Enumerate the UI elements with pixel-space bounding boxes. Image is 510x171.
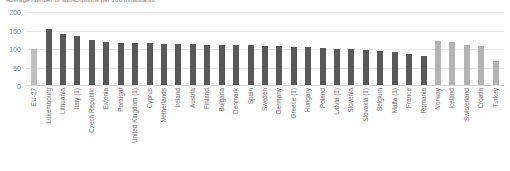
x-label-slot: Slovakia (1) <box>359 88 373 170</box>
bar-series <box>26 12 504 86</box>
bar[interactable] <box>320 48 326 86</box>
bar-slot <box>200 12 214 86</box>
x-label-slot: Switzerland <box>460 88 474 170</box>
x-label-slot: Estonia <box>99 88 113 170</box>
bar[interactable] <box>89 40 95 86</box>
x-tick-label: EU-27 <box>31 88 37 106</box>
bar[interactable] <box>348 49 354 86</box>
bar[interactable] <box>291 47 297 86</box>
bar[interactable] <box>392 52 398 86</box>
y-tick-label: 50 <box>13 64 21 71</box>
x-label-slot: Sweden <box>258 88 272 170</box>
bar-slot <box>489 12 503 86</box>
bar-slot <box>388 12 402 86</box>
bar[interactable] <box>31 49 37 86</box>
bar-slot <box>41 12 55 86</box>
y-tick-label: 0 <box>17 83 21 90</box>
x-tick-label: Lithuania <box>60 88 66 114</box>
bar[interactable] <box>478 46 484 86</box>
x-label-slot: Portugal <box>114 88 128 170</box>
bar-slot <box>171 12 185 86</box>
bar-slot <box>474 12 488 86</box>
bar[interactable] <box>248 45 254 86</box>
x-tick-label: Hungary <box>305 88 311 112</box>
bar[interactable] <box>262 46 268 86</box>
bar-slot <box>287 12 301 86</box>
bar-slot <box>142 12 156 86</box>
x-label-slot: Greece (1) <box>287 88 301 170</box>
bar[interactable] <box>161 44 167 86</box>
x-axis-baseline <box>26 85 504 86</box>
x-tick-label: Denmark <box>233 88 239 114</box>
x-label-slot: Finland <box>200 88 214 170</box>
x-label-slot: Slovenia <box>344 88 358 170</box>
y-tick-label: 100 <box>9 46 21 53</box>
x-label-slot: Hungary <box>301 88 315 170</box>
x-tick-label: Luxembourg <box>45 88 51 124</box>
bar[interactable] <box>334 49 340 86</box>
x-label-slot: Latvia (1) <box>330 88 344 170</box>
x-tick-label: France <box>406 88 412 108</box>
x-label-slot: Iceland <box>445 88 459 170</box>
bar-slot <box>402 12 416 86</box>
x-tick-label: Poland <box>319 88 325 108</box>
bar[interactable] <box>60 34 66 86</box>
bar-slot <box>99 12 113 86</box>
chart-title: Average number of subscriptions per 100 … <box>6 0 155 3</box>
bar[interactable] <box>276 46 282 86</box>
x-label-slot: Denmark <box>229 88 243 170</box>
bar[interactable] <box>305 47 311 86</box>
x-tick-label: Belgium <box>377 88 383 111</box>
bar[interactable] <box>190 44 196 86</box>
x-label-slot: Austria <box>186 88 200 170</box>
bar[interactable] <box>103 42 109 86</box>
x-tick-label: Turkey <box>493 88 499 107</box>
x-tick-label: Bulgaria <box>218 88 224 111</box>
bar-slot <box>416 12 430 86</box>
x-label-slot: Turkey <box>489 88 503 170</box>
x-label-slot: Cyprus <box>142 88 156 170</box>
bar[interactable] <box>363 50 369 86</box>
x-label-slot: Belgium <box>373 88 387 170</box>
bar-slot <box>272 12 286 86</box>
bar-slot <box>373 12 387 86</box>
x-tick-label: Switzerland <box>464 88 470 121</box>
bar[interactable] <box>204 45 210 86</box>
x-tick-label: Finland <box>204 88 210 109</box>
x-tick-label: Ireland <box>175 88 181 108</box>
bar[interactable] <box>46 29 52 86</box>
bar[interactable] <box>421 56 427 86</box>
x-tick-label: Estonia <box>103 88 109 109</box>
bar-slot <box>85 12 99 86</box>
bar[interactable] <box>449 42 455 86</box>
bar[interactable] <box>132 43 138 86</box>
x-tick-label: Norway <box>435 88 441 110</box>
bar[interactable] <box>435 41 441 86</box>
bar[interactable] <box>406 54 412 86</box>
x-label-slot: Netherlands <box>157 88 171 170</box>
x-tick-label: Spain <box>247 88 253 104</box>
bar[interactable] <box>493 61 499 86</box>
bar-slot <box>70 12 84 86</box>
bar[interactable] <box>118 43 124 86</box>
x-label-slot: Norway <box>431 88 445 170</box>
x-tick-label: Slovenia <box>348 88 354 113</box>
bar[interactable] <box>175 44 181 86</box>
x-tick-label: Czech Republic <box>89 88 95 133</box>
y-tick-label: 150 <box>9 27 21 34</box>
x-tick-label: Malta (1) <box>392 88 398 113</box>
bar-slot <box>344 12 358 86</box>
x-label-slot: EU-27 <box>27 88 41 170</box>
bar[interactable] <box>74 36 80 86</box>
bar[interactable] <box>219 45 225 86</box>
x-label-slot: Bulgaria <box>214 88 228 170</box>
bar-slot <box>243 12 257 86</box>
bar[interactable] <box>464 45 470 86</box>
bar[interactable] <box>147 43 153 86</box>
bar[interactable] <box>233 45 239 86</box>
bar-chart: Average number of subscriptions per 100 … <box>0 0 510 171</box>
x-label-slot: Spain <box>243 88 257 170</box>
bar[interactable] <box>377 51 383 86</box>
x-tick-label: Croatia <box>478 88 484 109</box>
x-label-slot: Lithuania <box>56 88 70 170</box>
